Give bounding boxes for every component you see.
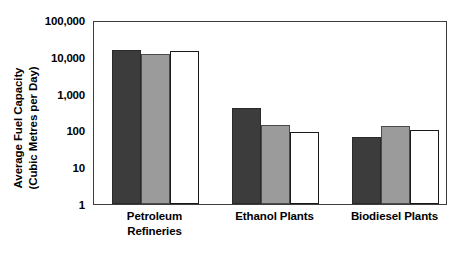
bar[interactable] bbox=[290, 132, 319, 204]
bar[interactable] bbox=[352, 137, 381, 204]
y-axis-tick-labels: 100,00010,0001,000100101 bbox=[0, 0, 88, 259]
x-axis-category-label-line: Refineries bbox=[127, 224, 182, 239]
y-axis-tick-label: 100,000 bbox=[45, 15, 85, 27]
bar[interactable] bbox=[232, 108, 261, 204]
bar[interactable] bbox=[261, 125, 290, 204]
y-axis-tick-label: 1,000 bbox=[57, 89, 85, 101]
x-axis-category-label: PetroleumRefineries bbox=[127, 209, 182, 239]
x-axis-category-label: Ethanol Plants bbox=[235, 209, 313, 224]
x-axis-category-labels: PetroleumRefineriesEthanol PlantsBiodies… bbox=[93, 209, 447, 257]
bar[interactable] bbox=[381, 126, 410, 204]
y-axis-tick-label: 1 bbox=[79, 199, 85, 211]
x-axis-category-label-line: Biodiesel Plants bbox=[351, 209, 438, 224]
bar-group bbox=[232, 22, 319, 204]
bar[interactable] bbox=[410, 130, 439, 204]
x-axis-category-label-line: Ethanol Plants bbox=[235, 209, 313, 224]
bar[interactable] bbox=[112, 50, 141, 204]
bar-chart: Average Fuel Capacity (Cubic Metres per … bbox=[0, 0, 463, 259]
x-axis-category-label: Biodiesel Plants bbox=[351, 209, 438, 224]
bar[interactable] bbox=[141, 54, 170, 204]
plot-area bbox=[93, 21, 447, 205]
y-axis-tick-label: 10 bbox=[73, 162, 85, 174]
bar-group bbox=[352, 22, 439, 204]
x-axis-category-label-line: Petroleum bbox=[127, 209, 182, 224]
plot-inner bbox=[94, 22, 446, 204]
y-axis-tick-label: 100 bbox=[66, 125, 85, 137]
y-axis-tick-label: 10,000 bbox=[51, 52, 85, 64]
bar-group bbox=[112, 22, 199, 204]
bar[interactable] bbox=[170, 51, 199, 204]
